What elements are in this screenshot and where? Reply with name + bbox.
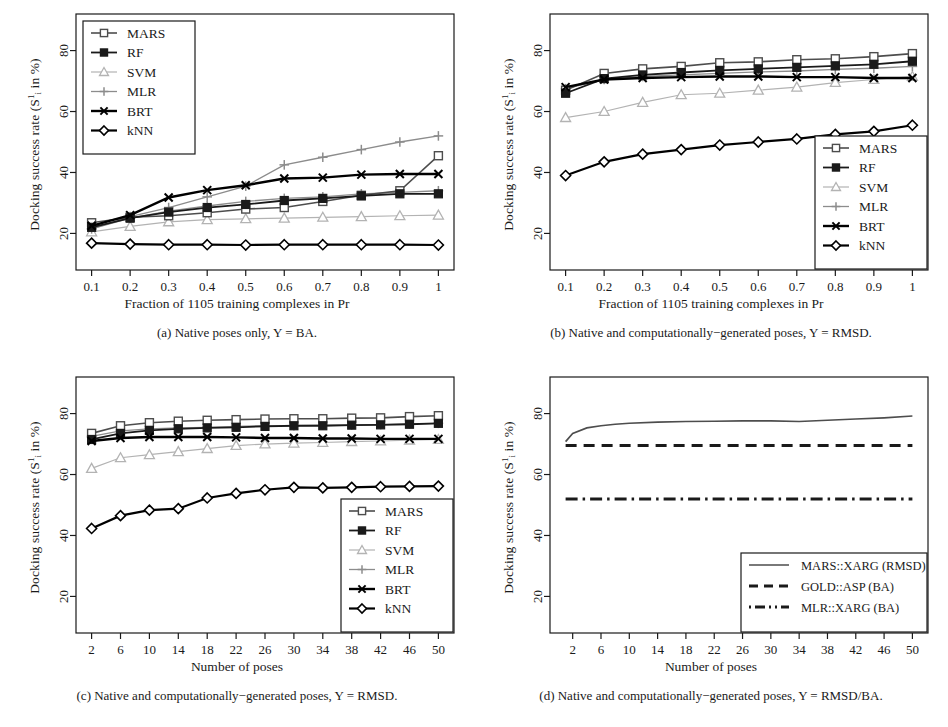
svg-text:0.5: 0.5 [712, 279, 728, 294]
svg-text:0.7: 0.7 [789, 279, 806, 294]
panel-b-x-axis-label: Fraction of 1105 training complexes in P… [474, 296, 948, 312]
panel-c-x-axis-label: Number of poses [0, 659, 474, 675]
svg-text:0.8: 0.8 [353, 279, 369, 294]
svg-text:18: 18 [679, 642, 692, 657]
panel-b-caption: (b) Native and computationally−generated… [474, 325, 948, 341]
svg-text:0.6: 0.6 [750, 279, 767, 294]
legend-label: MARS [127, 26, 165, 41]
svg-text:26: 26 [736, 642, 750, 657]
legend-label: SVM [385, 543, 414, 558]
figure-four-panel-line-charts: Docking success rate (S1i in %) 20406080… [0, 0, 948, 727]
svg-text:6: 6 [598, 642, 605, 657]
svg-text:10: 10 [143, 642, 156, 657]
svg-text:10: 10 [623, 642, 636, 657]
svg-text:20: 20 [530, 227, 545, 240]
panel-a-x-axis-label: Fraction of 1105 training complexes in P… [0, 296, 474, 312]
svg-text:22: 22 [708, 642, 721, 657]
svg-text:40: 40 [530, 529, 545, 542]
panel-d: Docking success rate (S1i in %) 20406080… [474, 363, 948, 726]
svg-text:0.9: 0.9 [392, 279, 408, 294]
series-brt [562, 72, 917, 91]
svg-text:14: 14 [651, 642, 665, 657]
panel-a: Docking success rate (S1i in %) 20406080… [0, 0, 474, 363]
svg-text:0.2: 0.2 [122, 279, 138, 294]
svg-text:0.4: 0.4 [673, 279, 690, 294]
svg-text:0.3: 0.3 [635, 279, 651, 294]
svg-text:0.7: 0.7 [315, 279, 332, 294]
svg-text:0.1: 0.1 [557, 279, 573, 294]
legend-label: MLR [127, 84, 156, 99]
svg-text:30: 30 [287, 642, 300, 657]
svg-text:42: 42 [374, 642, 387, 657]
svg-text:0.2: 0.2 [596, 279, 612, 294]
panel-a-caption: (a) Native poses only, Y = BA. [0, 325, 474, 341]
legend-label: GOLD::ASP (BA) [801, 580, 894, 594]
svg-text:80: 80 [530, 407, 545, 420]
panel-d-plot-area: 20406080261014182226303438424650MARS::XA… [474, 363, 948, 663]
legend-label: MARS::XARG (RMSD) [801, 559, 926, 573]
legend-label: SVM [859, 180, 888, 195]
panel-c-caption: (c) Native and computationally−generated… [0, 688, 474, 704]
svg-text:38: 38 [821, 642, 834, 657]
svg-text:20: 20 [56, 590, 71, 603]
svg-text:40: 40 [56, 166, 71, 179]
legend-label: MLR::XARG (BA) [801, 601, 899, 615]
svg-text:40: 40 [56, 529, 71, 542]
series-knn [87, 238, 444, 250]
svg-text:38: 38 [345, 642, 358, 657]
legend-label: BRT [127, 104, 153, 119]
svg-text:0.4: 0.4 [199, 279, 216, 294]
legend-label: RF [127, 45, 144, 60]
svg-text:42: 42 [849, 642, 862, 657]
svg-text:60: 60 [530, 105, 545, 118]
svg-text:18: 18 [201, 642, 214, 657]
svg-text:60: 60 [56, 105, 71, 118]
svg-text:80: 80 [56, 407, 71, 420]
legend-label: BRT [385, 582, 411, 597]
legend-label: kNN [127, 123, 153, 138]
legend-label: MARS [859, 141, 897, 156]
legend-label: RF [859, 160, 876, 175]
panel-a-plot-area: 204060800.10.20.30.40.50.60.70.80.91MARS… [0, 0, 474, 300]
svg-text:20: 20 [56, 227, 71, 240]
svg-text:6: 6 [117, 642, 124, 657]
svg-text:60: 60 [56, 468, 71, 481]
svg-text:0.6: 0.6 [276, 279, 293, 294]
svg-text:0.8: 0.8 [827, 279, 843, 294]
series-0 [566, 416, 913, 442]
legend-label: kNN [385, 601, 411, 616]
panel-d-x-axis-label: Number of poses [474, 659, 948, 675]
svg-text:50: 50 [432, 642, 445, 657]
svg-text:0.5: 0.5 [238, 279, 254, 294]
svg-text:1: 1 [909, 279, 916, 294]
series-svm [87, 434, 444, 472]
svg-text:34: 34 [793, 642, 807, 657]
legend-label: kNN [859, 238, 885, 253]
svg-text:1: 1 [435, 279, 442, 294]
svg-text:60: 60 [530, 468, 545, 481]
svg-text:30: 30 [764, 642, 777, 657]
panel-d-caption: (d) Native and computationally−generated… [474, 688, 948, 704]
svg-text:2: 2 [88, 642, 95, 657]
svg-text:46: 46 [403, 642, 417, 657]
panel-c-plot-area: 20406080261014182226303438424650MARSRFSV… [0, 363, 474, 663]
svg-text:0.1: 0.1 [83, 279, 99, 294]
svg-text:80: 80 [56, 44, 71, 57]
svg-text:0.9: 0.9 [866, 279, 882, 294]
series-mars [562, 50, 917, 95]
legend-label: BRT [859, 219, 885, 234]
panel-b: Docking success rate (S1i in %) 20406080… [474, 0, 948, 363]
svg-text:2: 2 [569, 642, 576, 657]
panel-c: Docking success rate (S1i in %) 20406080… [0, 363, 474, 726]
svg-text:46: 46 [878, 642, 892, 657]
svg-text:26: 26 [259, 642, 273, 657]
legend-label: RF [385, 523, 402, 538]
svg-text:80: 80 [530, 44, 545, 57]
panel-b-plot-area: 204060800.10.20.30.40.50.60.70.80.91MARS… [474, 0, 948, 300]
legend-label: MARS [385, 504, 423, 519]
svg-text:34: 34 [316, 642, 330, 657]
svg-text:40: 40 [530, 166, 545, 179]
svg-text:22: 22 [230, 642, 243, 657]
svg-text:50: 50 [906, 642, 919, 657]
svg-text:20: 20 [530, 590, 545, 603]
